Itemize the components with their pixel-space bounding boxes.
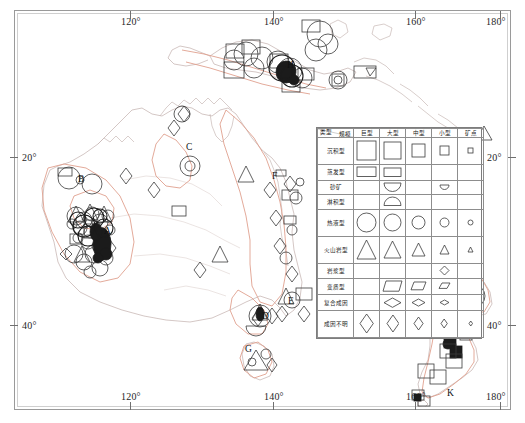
- legend-cell: [458, 278, 484, 295]
- legend-symbol-parallelogram: [382, 280, 403, 292]
- legend-cell: [380, 278, 406, 295]
- legend-symbol-triangle: [356, 239, 377, 260]
- legend-row-label: 火山岩型: [318, 236, 354, 263]
- legend-cell: [354, 180, 380, 195]
- legend-cell: [406, 236, 432, 263]
- map-label-C: C: [186, 142, 192, 152]
- legend-symbol-square: [356, 140, 377, 161]
- legend-cell: [432, 311, 458, 338]
- map-label-H: H: [287, 60, 294, 70]
- legend-cell: [458, 138, 484, 165]
- map-label-B: B: [78, 174, 84, 184]
- legend-cell: [432, 195, 458, 210]
- legend-cell: [406, 263, 432, 278]
- map-label-D: D: [262, 311, 269, 321]
- legend-row: 热液型: [318, 209, 484, 236]
- legend-symbol-rhombus: [413, 316, 424, 331]
- legend-symbol-rhombus: [359, 313, 374, 334]
- legend-cell: [380, 180, 406, 195]
- legend-cell: [458, 164, 484, 180]
- legend-symbol-diamond: [439, 265, 450, 276]
- legend-row: 淋积型: [318, 195, 484, 210]
- legend-cell: [458, 209, 484, 236]
- legend-row-label: 淋积型: [318, 195, 354, 210]
- figure-root: 120° 140° 160° 180° 120° 140° 160° 180° …: [0, 0, 525, 423]
- legend-cell: [406, 209, 432, 236]
- legend-cell: [458, 236, 484, 263]
- legend-row-label: 沉积型: [318, 138, 354, 165]
- legend-cell: [354, 195, 380, 210]
- legend-cell: [458, 311, 484, 338]
- legend-cell: [432, 263, 458, 278]
- legend-cell: [354, 311, 380, 338]
- legend-row: 砂矿: [318, 180, 484, 195]
- legend-cell: [380, 164, 406, 180]
- legend-row: 复合成因: [318, 295, 484, 311]
- legend-symbol-lens: [439, 299, 450, 306]
- legend-cell: [406, 138, 432, 165]
- legend-cell: [406, 278, 432, 295]
- legend-symbol-rhombus: [386, 314, 400, 333]
- legend-cell: [354, 263, 380, 278]
- map-label-E: E: [288, 296, 294, 306]
- legend-col-1: 大型: [380, 129, 406, 138]
- legend-symbol-square: [439, 145, 450, 156]
- legend-cell: [458, 180, 484, 195]
- legend-cell: [458, 295, 484, 311]
- legend-symbol-lens: [411, 298, 426, 307]
- legend-cell: [406, 164, 432, 180]
- legend-symbol-rhombus: [468, 320, 474, 327]
- legend-cell: [432, 295, 458, 311]
- legend-corner-cell: 规模 类型: [318, 129, 354, 138]
- legend-row: 蒸发型: [318, 164, 484, 180]
- legend-symbol-parallelogram: [410, 281, 427, 291]
- legend-symbol-circle: [439, 217, 450, 228]
- legend-cell: [354, 138, 380, 165]
- legend-symbol-lens: [383, 297, 402, 308]
- legend-cell: [458, 263, 484, 278]
- legend-symbol-rect: [356, 166, 377, 178]
- legend-cell: [380, 195, 406, 210]
- legend-symbol-square: [411, 143, 426, 158]
- legend-symbol-parallelogram: [438, 282, 451, 289]
- legend-row: 沉积型: [318, 138, 484, 165]
- cluster-H: [224, 40, 314, 92]
- legend-row-label: 成因不明: [318, 311, 354, 338]
- map-label-A: A: [104, 226, 111, 236]
- legend-cell: [380, 236, 406, 263]
- legend-symbol-triangle: [439, 244, 450, 255]
- legend-cell: [354, 236, 380, 263]
- map-label-F: F: [272, 171, 277, 181]
- legend-row-label: 变质型: [318, 278, 354, 295]
- legend-symbol-square: [383, 141, 402, 160]
- legend-symbol-square: [467, 147, 474, 154]
- legend-cell: [432, 180, 458, 195]
- legend-cell: [406, 311, 432, 338]
- legend-cell: [380, 263, 406, 278]
- legend-symbol-semicircle-down: [439, 184, 450, 191]
- legend-cell: [432, 236, 458, 263]
- legend-row-label: 砂矿: [318, 180, 354, 195]
- map-label-K: K: [447, 388, 454, 398]
- map-label-G: G: [245, 344, 252, 354]
- legend-cell: [406, 195, 432, 210]
- legend-table: 规模 类型 巨型 大型 中型 小型 矿点 沉积型蒸发型砂矿淋积型热液型火山岩型岩…: [317, 128, 484, 338]
- legend-body: 沉积型蒸发型砂矿淋积型热液型火山岩型岩浆型变质型复合成因成因不明: [318, 138, 484, 338]
- legend-cell: [380, 311, 406, 338]
- legend-symbol-rect: [383, 167, 402, 178]
- legend-cell: [380, 209, 406, 236]
- legend-row-label: 热液型: [318, 209, 354, 236]
- legend-header-row: 规模 类型 巨型 大型 中型 小型 矿点: [318, 129, 484, 138]
- legend-cell: [432, 209, 458, 236]
- legend-col-3: 小型: [432, 129, 458, 138]
- legend-cell: [354, 295, 380, 311]
- legend-symbol-triangle: [411, 242, 426, 257]
- legend-row-label: 岩浆型: [318, 263, 354, 278]
- legend-row-label: 蒸发型: [318, 164, 354, 180]
- legend-symbol-circle: [356, 212, 377, 233]
- legend-row-label: 复合成因: [318, 295, 354, 311]
- legend-cell: [406, 180, 432, 195]
- legend-row: 岩浆型: [318, 263, 484, 278]
- legend-col-2: 中型: [406, 129, 432, 138]
- legend-cell: [380, 295, 406, 311]
